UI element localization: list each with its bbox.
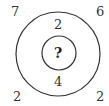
ring-top: 2 [54,17,62,32]
corner-bottom-left: 2 [13,89,21,104]
corner-top-right: 6 [96,4,104,19]
center-unknown: ? [54,45,62,61]
puzzle-diagram: 7 6 2 ? 4 2 2 [0,0,109,106]
corner-top-left: 7 [11,4,19,19]
ring-bottom: 4 [54,74,62,89]
corner-bottom-right: 2 [96,89,104,104]
